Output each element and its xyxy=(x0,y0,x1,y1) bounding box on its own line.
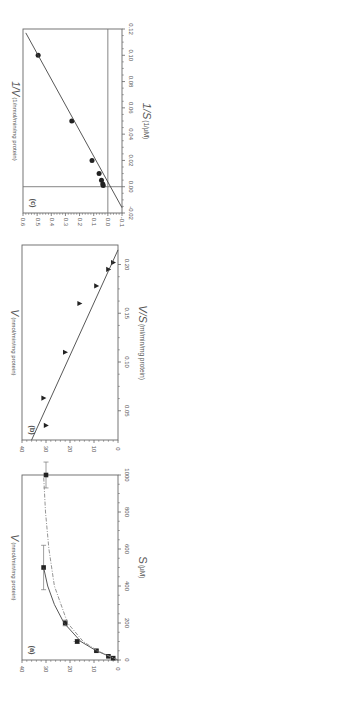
x-tick-label: 0.00 xyxy=(128,181,134,193)
y-axis-title-unit: (1/nmol/min/mg protein) xyxy=(12,97,18,160)
panel-tag: (c) xyxy=(29,198,38,208)
y-axis-title-main: 1/V xyxy=(10,81,21,97)
y-axis-title-unit: (nmol/min/mg protein) xyxy=(11,542,17,600)
x-tick-label: 0 xyxy=(124,658,130,662)
x-tick-label: 0.05 xyxy=(124,405,130,417)
plot-frame xyxy=(22,245,118,440)
y-tick-label: 0 xyxy=(115,447,121,451)
x-tick-label: 800 xyxy=(124,507,130,518)
x-tick-label: 0.12 xyxy=(128,23,134,35)
x-tick-label: 0.02 xyxy=(128,155,134,167)
y-tick-label: 0.5 xyxy=(35,218,41,227)
triangle-marker xyxy=(63,350,68,355)
x-tick-label: 0.20 xyxy=(124,259,130,271)
x-axis-title-main: S xyxy=(137,557,149,564)
x-tick-label: 0.15 xyxy=(124,307,130,319)
y-tick-label: 0 xyxy=(115,667,121,671)
x-tick-label: 600 xyxy=(124,544,130,555)
x-axis-title-unit: (ml/min/mg protein) xyxy=(138,324,146,380)
y-tick-label: 30 xyxy=(43,666,49,673)
x-tick-label: 0.08 xyxy=(128,76,134,88)
x-tick-label: -0.02 xyxy=(128,206,134,220)
y-tick-label: 20 xyxy=(67,666,73,673)
fit-line xyxy=(44,568,118,661)
fit-line xyxy=(44,475,118,660)
y-tick-label: 0.4 xyxy=(49,218,55,227)
triangle-marker xyxy=(77,301,82,306)
panel-c: -0.10.00.10.20.30.40.50.6-0.020.000.020.… xyxy=(10,23,153,228)
y-tick-label: 0.0 xyxy=(105,218,111,227)
x-axis-title: 1/S(1/µM) xyxy=(141,103,153,139)
x-axis-title: V/S(ml/min/mg protein) xyxy=(137,305,149,380)
x-axis-title: S(µM) xyxy=(137,557,149,579)
x-axis-title-main: 1/S xyxy=(141,103,153,120)
y-tick-label: 30 xyxy=(43,446,49,453)
panel-tag: (a) xyxy=(28,645,37,655)
y-axis-title: 1/V(1/nmol/min/mg protein) xyxy=(10,81,21,160)
triangle-marker xyxy=(41,395,46,400)
panel-b: 0102030400.050.100.150.20V/S(ml/min/mg p… xyxy=(9,245,149,453)
y-tick-label: 0.3 xyxy=(63,218,69,227)
y-tick-label: 10 xyxy=(91,666,97,673)
circle-marker xyxy=(99,178,104,183)
y-axis-title-unit: (nmol/min/mg protein) xyxy=(11,317,17,375)
x-axis-title-main: V/S xyxy=(137,305,149,323)
y-tick-label: 0.1 xyxy=(91,218,97,227)
x-tick-label: 0.10 xyxy=(124,356,130,368)
y-tick-label: 40 xyxy=(19,666,25,673)
triangle-marker xyxy=(44,423,49,428)
panel-a: 01020304002004006008001000S(µM)V(nmol/mi… xyxy=(9,462,149,673)
y-tick-label: 40 xyxy=(19,446,25,453)
x-axis-title-unit: (1/µM) xyxy=(142,120,150,139)
x-tick-label: 1000 xyxy=(124,468,130,482)
y-axis-title: V(nmol/min/mg protein) xyxy=(9,309,20,375)
fit-line xyxy=(32,250,118,440)
x-tick-label: 0.06 xyxy=(128,102,134,114)
circle-marker xyxy=(90,158,95,163)
y-tick-label: 10 xyxy=(91,446,97,453)
kinetics-figure: 01020304002004006008001000S(µM)V(nmol/mi… xyxy=(0,0,355,706)
y-tick-label: -0.1 xyxy=(119,217,125,228)
triangle-marker xyxy=(94,283,99,288)
y-tick-label: 0.6 xyxy=(20,218,26,227)
circle-marker xyxy=(97,171,102,176)
x-tick-label: 400 xyxy=(124,581,130,592)
y-tick-label: 0.2 xyxy=(77,218,83,227)
square-marker xyxy=(44,473,49,478)
x-tick-label: 0.10 xyxy=(128,49,134,61)
x-tick-label: 0.04 xyxy=(128,128,134,140)
x-tick-label: 200 xyxy=(124,618,130,629)
plot-frame xyxy=(22,475,118,660)
y-axis-title: V(nmol/min/mg protein) xyxy=(9,534,20,600)
y-tick-label: 20 xyxy=(67,446,73,453)
x-axis-title-unit: (µM) xyxy=(138,565,146,579)
